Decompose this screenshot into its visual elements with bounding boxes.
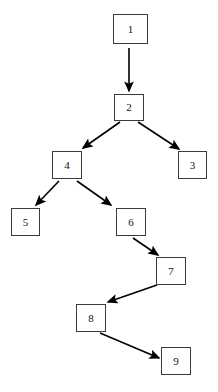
- node-7[interactable]: 7: [156, 257, 186, 285]
- node-5[interactable]: 5: [11, 208, 40, 236]
- edge-layer: [0, 0, 218, 392]
- node-1[interactable]: 1: [113, 14, 148, 44]
- node-label-1: 1: [128, 23, 134, 34]
- edge-n8-to-n9: [100, 333, 159, 358]
- edge-n4-to-n6: [77, 181, 111, 205]
- node-9[interactable]: 9: [161, 347, 191, 375]
- edge-n2-to-n4: [83, 122, 120, 148]
- edges-group: [36, 48, 179, 358]
- node-label-8: 8: [88, 312, 94, 323]
- node-label-3: 3: [190, 159, 196, 170]
- edge-n7-to-n8: [108, 285, 157, 302]
- edge-n2-to-n3: [138, 122, 179, 149]
- node-label-4: 4: [64, 159, 70, 170]
- node-4[interactable]: 4: [52, 151, 82, 179]
- node-label-9: 9: [173, 355, 179, 366]
- node-2[interactable]: 2: [114, 94, 144, 121]
- node-label-7: 7: [168, 265, 174, 276]
- node-3[interactable]: 3: [178, 151, 207, 179]
- edge-n4-to-n5: [36, 181, 59, 205]
- node-6[interactable]: 6: [116, 208, 146, 236]
- edge-n6-to-n7: [133, 238, 158, 255]
- node-label-5: 5: [23, 216, 29, 227]
- tree-diagram: 123456789: [0, 0, 218, 392]
- node-8[interactable]: 8: [76, 304, 106, 332]
- node-label-6: 6: [128, 216, 134, 227]
- node-label-2: 2: [126, 102, 132, 113]
